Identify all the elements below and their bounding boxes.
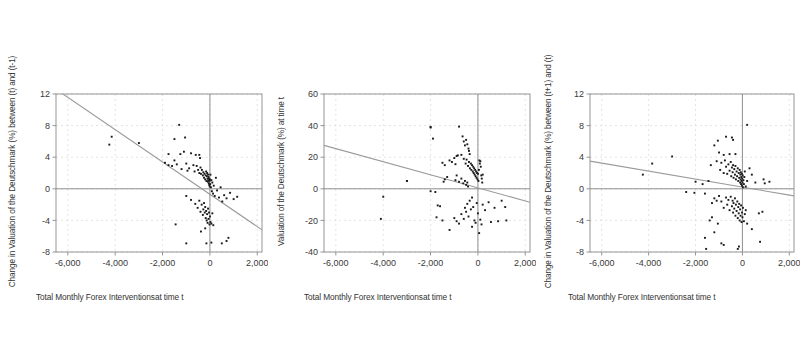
chart-panel-2: Valuation of the Deutschmark (%) at time… — [268, 0, 536, 342]
panel-2-plot-area: 6040200-20-40-6,000-4,000-2,00002,000 — [294, 82, 536, 282]
panel-3-x-axis-label: Total Monthly Forex Interventionsat time… — [568, 292, 716, 302]
svg-text:-40: -40 — [305, 247, 318, 257]
svg-text:0: 0 — [579, 184, 584, 194]
panel-1-plot-area: 12840-4-8-6,000-4,000-2,00002,000 — [26, 82, 268, 282]
svg-text:2,000: 2,000 — [778, 258, 800, 268]
svg-text:4: 4 — [45, 152, 50, 162]
panel-3-svg: 12840-4-8-6,000-4,000-2,00002,000 — [560, 82, 800, 282]
svg-text:-6,000: -6,000 — [55, 258, 81, 268]
svg-text:-2,000: -2,000 — [683, 258, 709, 268]
svg-text:-6,000: -6,000 — [589, 258, 615, 268]
svg-text:-4: -4 — [576, 216, 584, 226]
svg-text:0: 0 — [45, 184, 50, 194]
svg-text:-2,000: -2,000 — [418, 258, 444, 268]
svg-text:4: 4 — [579, 152, 584, 162]
svg-text:8: 8 — [579, 121, 584, 131]
svg-text:0: 0 — [313, 184, 318, 194]
svg-text:-2,000: -2,000 — [150, 258, 176, 268]
panel-1-svg: 12840-4-8-6,000-4,000-2,00002,000 — [26, 82, 268, 282]
svg-text:12: 12 — [40, 89, 50, 99]
svg-text:20: 20 — [308, 152, 318, 162]
svg-text:0: 0 — [475, 258, 480, 268]
panel-1-x-axis-label: Total Monthly Forex Interventionsat time… — [36, 292, 184, 302]
panel-1-y-axis-label: Change in Valuation of the Deutschmark (… — [0, 0, 26, 342]
svg-text:0: 0 — [207, 258, 212, 268]
svg-text:-4: -4 — [42, 216, 50, 226]
scatter-plot-figure: Change in Valuation of the Deutschmark (… — [0, 0, 800, 342]
svg-text:2,000: 2,000 — [246, 258, 268, 268]
svg-text:40: 40 — [308, 121, 318, 131]
svg-text:-8: -8 — [576, 247, 584, 257]
panel-3-plot-area: 12840-4-8-6,000-4,000-2,00002,000 — [560, 82, 800, 282]
svg-text:0: 0 — [740, 258, 745, 268]
svg-text:60: 60 — [308, 89, 318, 99]
svg-text:12: 12 — [574, 89, 584, 99]
svg-text:8: 8 — [45, 121, 50, 131]
panel-2-y-axis-label: Valuation of the Deutschmark (%) at time… — [268, 0, 294, 342]
chart-panel-3: Change in Valuation of the Deutschmark (… — [536, 0, 800, 342]
svg-text:2,000: 2,000 — [514, 258, 536, 268]
svg-text:-8: -8 — [42, 247, 50, 257]
svg-text:-4,000: -4,000 — [102, 258, 128, 268]
svg-text:-6,000: -6,000 — [323, 258, 349, 268]
panel-2-x-axis-label: Total Monthly Forex Interventionsat time… — [304, 292, 452, 302]
panel-2-svg: 6040200-20-40-6,000-4,000-2,00002,000 — [294, 82, 536, 282]
chart-panel-1: Change in Valuation of the Deutschmark (… — [0, 0, 268, 342]
svg-text:-20: -20 — [305, 216, 318, 226]
svg-text:-4,000: -4,000 — [636, 258, 662, 268]
panel-3-y-axis-label: Change in Valuation of the Deutschmark (… — [536, 0, 562, 342]
svg-text:-4,000: -4,000 — [370, 258, 396, 268]
